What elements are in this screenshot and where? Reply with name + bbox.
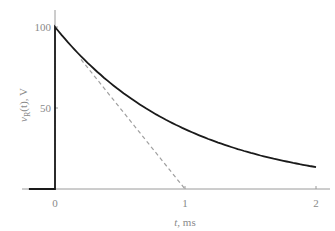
- response-curve-drawn: [29, 27, 316, 189]
- tangent-line: [81, 59, 185, 189]
- x-tick-label-0: 0: [52, 197, 58, 209]
- x-tick-label-1: 1: [182, 197, 188, 209]
- x-tick-label-2: 2: [313, 197, 319, 209]
- y-tick-label-100: 100: [35, 21, 52, 33]
- y-tick-label-50: 50: [40, 102, 52, 114]
- y-axis-label: vR(t), V: [17, 88, 32, 122]
- chart: 100 50 0 1 2 t, ms vR(t), V: [0, 0, 335, 231]
- x-axis-label: t, ms: [174, 216, 195, 228]
